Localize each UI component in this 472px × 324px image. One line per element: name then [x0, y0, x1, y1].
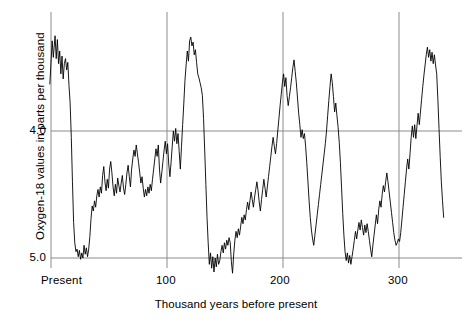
gridlines [51, 12, 462, 268]
x-tick-label-200: 200 [270, 274, 290, 286]
x-tick-label-present: Present [41, 274, 82, 286]
x-tick-label-100: 100 [156, 274, 176, 286]
x-axis-title: Thousand years before present [0, 298, 472, 310]
x-tick-label-300: 300 [388, 274, 408, 286]
oxygen-18-chart-figure: 4.0 5.0 Present 100 200 300 Oxygen-18 va… [0, 0, 472, 324]
y-axis-title: Oxygen-18 values in parts per thousand [34, 16, 46, 256]
oxygen-18-data-line [50, 36, 444, 273]
